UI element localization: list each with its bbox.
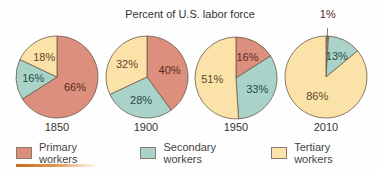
tertiary-swatch-icon <box>271 147 287 159</box>
slice-label-tertiary-1900: 32% <box>116 58 138 70</box>
slice-label-primary-2010: 1% <box>320 8 336 20</box>
slice-label-secondary-1950: 33% <box>246 83 268 95</box>
year-label-1850: 1850 <box>27 121 87 133</box>
slice-label-primary-1850: 66% <box>64 81 86 93</box>
slice-label-tertiary-1950: 51% <box>201 73 223 85</box>
year-label-1900: 1900 <box>116 121 176 133</box>
slice-label-tertiary-2010: 86% <box>306 90 328 102</box>
slice-label-primary-1950: 16% <box>236 51 258 63</box>
legend-label-primary: Primary workers <box>39 141 104 165</box>
year-label-2010: 2010 <box>296 121 356 133</box>
slice-label-secondary-2010: 13% <box>326 50 348 62</box>
slice-label-secondary-1900: 28% <box>130 94 152 106</box>
year-label-1950: 1950 <box>206 121 266 133</box>
legend-label-secondary: Secondary workers <box>163 141 241 165</box>
slice-label-tertiary-1850: 18% <box>33 51 55 63</box>
pie-1900: 40%28%32% <box>106 36 188 118</box>
decorative-gradient-bar <box>16 164 98 167</box>
slice-label-primary-1900: 40% <box>159 64 181 76</box>
pie-1950: 16%33%51% <box>195 37 277 119</box>
pie-1850: 66%16%18% <box>16 36 98 118</box>
primary-swatch-icon <box>16 147 32 159</box>
legend-item-secondary: Secondary workers <box>140 141 241 165</box>
legend-item-tertiary: Tertiary workers <box>271 141 358 165</box>
legend-item-primary: Primary workers <box>16 141 104 165</box>
legend: Primary workers Secondary workers Tertia… <box>16 141 380 165</box>
pie-2010: 1%13%86% <box>285 8 367 118</box>
slice-label-secondary-1850: 16% <box>22 72 44 84</box>
legend-label-tertiary: Tertiary workers <box>294 141 358 165</box>
secondary-swatch-icon <box>140 147 156 159</box>
